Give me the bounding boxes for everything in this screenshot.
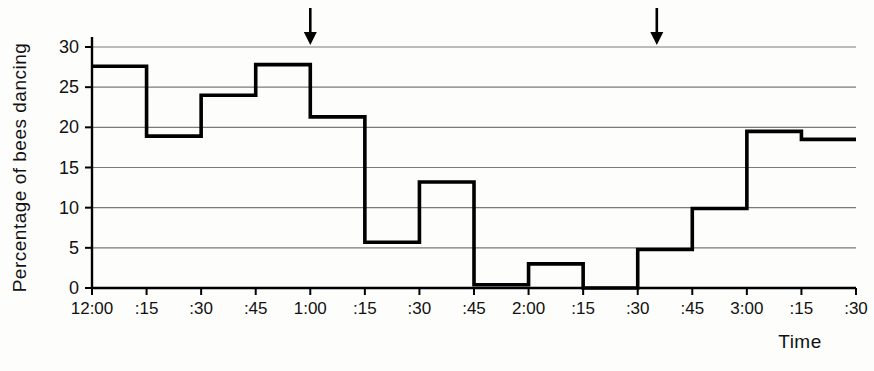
x-tick-label-14: :30 [844,299,868,318]
x-tick-label-3: :45 [244,299,268,318]
x-tick-label-4: 1:00 [294,299,327,318]
x-tick-label-1: :15 [135,299,159,318]
step-line-path [92,65,856,288]
x-tick-label-13: :15 [790,299,814,318]
y-axis-tick-labels: 051015202530 [59,37,79,298]
y-tick-label-0: 0 [69,278,79,298]
annotation-arrows [304,8,664,45]
y-tick-label-25: 25 [59,77,79,97]
y-tick-label-5: 5 [69,238,79,258]
x-tick-label-8: 2:00 [512,299,545,318]
step-chart: 051015202530 12:00:15:30:451:00:15:30:45… [0,0,874,371]
x-tick-label-0: 12:00 [71,299,114,318]
data-step-line [92,65,856,288]
x-tick-label-9: :15 [571,299,595,318]
y-axis-title: Percentage of bees dancing [9,43,30,293]
x-tick-label-5: :15 [353,299,377,318]
x-tick-label-12: 3:00 [730,299,763,318]
y-tick-label-30: 30 [59,37,79,57]
x-tick-label-7: :45 [462,299,486,318]
x-tick-label-10: :30 [626,299,650,318]
y-tick-label-10: 10 [59,198,79,218]
x-axis-tick-labels: 12:00:15:30:451:00:15:30:452:00:15:30:45… [71,299,868,318]
x-axis-title: Time [778,331,822,352]
y-tick-label-15: 15 [59,158,79,178]
x-tick-label-2: :30 [189,299,213,318]
annotation-arrow-2 [650,8,663,45]
chart-figure: 051015202530 12:00:15:30:451:00:15:30:45… [0,0,874,371]
annotation-arrow-1 [304,8,317,45]
x-tick-label-6: :30 [408,299,432,318]
y-tick-label-20: 20 [59,117,79,137]
x-tick-label-11: :45 [680,299,704,318]
